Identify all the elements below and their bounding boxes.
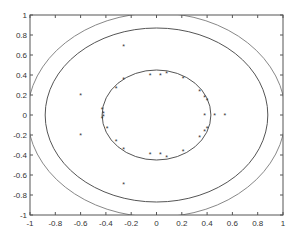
data-point: * <box>203 112 206 119</box>
data-point: * <box>165 154 168 161</box>
x-tick-label: -0.4 <box>99 219 113 228</box>
y-tick-label: -0.6 <box>13 171 27 180</box>
y-tick-label: -1 <box>20 211 28 220</box>
data-point: * <box>122 76 125 83</box>
data-point: * <box>122 43 125 50</box>
data-point: * <box>115 85 118 92</box>
data-point: * <box>149 72 152 79</box>
scatter-chart: ****************************** -1-0.8-0.… <box>0 0 298 236</box>
data-point: * <box>159 72 162 79</box>
data-point: * <box>106 125 109 132</box>
x-tick-label: 1 <box>281 219 286 228</box>
x-tick-label: 0.8 <box>252 219 264 228</box>
data-point: * <box>206 97 209 104</box>
x-tick-label: -1 <box>26 219 34 228</box>
y-tick-label: -0.8 <box>13 191 27 200</box>
data-point: * <box>182 75 185 82</box>
data-point: * <box>182 148 185 155</box>
data-point: * <box>101 115 104 122</box>
y-tick-label: 0.4 <box>16 71 28 80</box>
y-tick-label: -0.2 <box>13 131 27 140</box>
x-tick-label: 0.6 <box>227 219 239 228</box>
data-point: * <box>122 146 125 153</box>
data-point: * <box>122 181 125 188</box>
y-tick-label: 0.6 <box>16 51 28 60</box>
data-point: * <box>198 134 201 141</box>
y-tick-label: 0 <box>23 111 28 120</box>
x-tick-label: 0.4 <box>202 219 214 228</box>
data-point: * <box>159 151 162 158</box>
data-point: * <box>198 88 201 95</box>
x-tick-label: -0.6 <box>74 219 88 228</box>
data-point: * <box>223 112 226 119</box>
x-tick-label: 0 <box>154 219 159 228</box>
x-tick-label: -0.2 <box>124 219 138 228</box>
data-point: * <box>149 151 152 158</box>
data-point: * <box>79 132 82 139</box>
y-tick-label: -0.4 <box>13 151 27 160</box>
plot-area <box>30 15 283 215</box>
y-tick-label: 1 <box>23 11 28 20</box>
data-point: * <box>115 138 118 145</box>
data-point: * <box>213 112 216 119</box>
y-tick-label: 0.2 <box>16 91 28 100</box>
data-point: * <box>165 70 168 77</box>
y-tick-label: 0.8 <box>16 31 28 40</box>
data-point: * <box>206 125 209 132</box>
x-tick-label: 0.2 <box>176 219 188 228</box>
x-tick-label: -0.8 <box>48 219 62 228</box>
data-point: * <box>79 92 82 99</box>
